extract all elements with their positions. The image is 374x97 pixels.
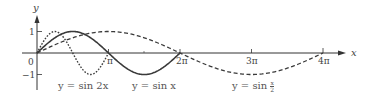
y-tick-label-neg1: −1 — [22, 70, 35, 80]
y-axis-label: y — [33, 3, 39, 13]
x-axis-label: x — [351, 48, 357, 58]
x-tick-label-4pi: 4π — [318, 56, 330, 66]
y-tick-label-1: 1 — [29, 27, 35, 37]
sine-chart — [0, 0, 374, 97]
fraction-denominator: 2 — [270, 87, 274, 93]
x-tick-label-2pi: 2π — [176, 56, 188, 66]
curve-label-sin-x-over-2: y = sin x 2 — [232, 80, 274, 93]
curve-label-prefix: y = sin — [232, 80, 267, 91]
x-tick-label-3pi: 3π — [246, 56, 258, 66]
x-axis-arrow-icon — [338, 51, 346, 56]
curve-label-sin-x: y = sin x — [132, 81, 176, 91]
origin-label: 0 — [28, 57, 34, 67]
curve-label-sin-2x: y = sin 2x — [58, 81, 108, 91]
fraction: x 2 — [270, 80, 274, 93]
y-axis-arrow-icon — [35, 15, 40, 23]
x-tick-label-pi: π — [107, 56, 113, 66]
